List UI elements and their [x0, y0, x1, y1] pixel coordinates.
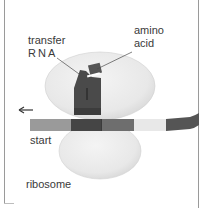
mrna-segment-codon-2: [102, 119, 134, 131]
mrna-segment-codon-1: [71, 119, 102, 131]
mrna-segment-codon-4: [166, 113, 199, 131]
diagram-graphics: [0, 0, 208, 208]
mrna-segment-start: [30, 119, 71, 131]
ribosome-small-subunit: [59, 123, 141, 179]
amino-acid-label: amino acid: [134, 24, 164, 50]
mrna-segment-codon-3: [134, 119, 166, 131]
amino-acid-label-line1: amino: [134, 24, 164, 37]
ribosome-label: ribosome: [26, 178, 71, 191]
transfer-rna-label-line2: RNA: [28, 47, 65, 60]
amino-acid-label-line2: acid: [134, 37, 164, 50]
start-label: start: [30, 134, 51, 147]
ribosome-diagram: transfer RNA amino acid start ribosome: [0, 0, 208, 208]
left-arrow-icon: [19, 107, 33, 113]
transfer-rna-label-line1: transfer: [28, 34, 65, 47]
transfer-rna-label: transfer RNA: [28, 34, 65, 60]
